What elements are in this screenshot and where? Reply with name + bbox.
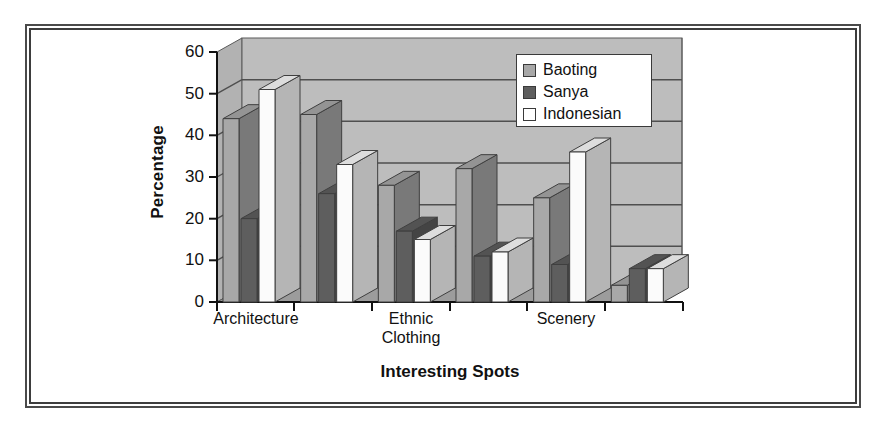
bar-sanya-1-front bbox=[319, 194, 335, 302]
legend-label-sanya: Sanya bbox=[543, 84, 588, 100]
y-axis-title: Percentage bbox=[148, 72, 168, 272]
bar-baoting-2-front bbox=[378, 185, 394, 302]
y-tick-label-40: 40 bbox=[170, 126, 204, 143]
x-tick-label-architecture: Architecture bbox=[196, 309, 316, 328]
x-axis-title-text: Interesting Spots bbox=[381, 362, 520, 381]
legend-label-baoting: Baoting bbox=[543, 62, 597, 78]
bar-indonesian-4-front bbox=[570, 152, 586, 302]
legend-swatch-sanya bbox=[523, 86, 536, 99]
legend-entry-indonesian: Indonesian bbox=[523, 103, 646, 125]
bar-baoting-3-front bbox=[456, 169, 472, 302]
y-tick-label-20: 20 bbox=[170, 210, 204, 227]
bar-chart: 60 50 40 30 20 10 0 Percentage Architect… bbox=[0, 0, 886, 432]
bar-baoting-0-front bbox=[223, 119, 239, 302]
bar-indonesian-5-front bbox=[647, 269, 663, 302]
legend-entry-baoting: Baoting bbox=[523, 59, 646, 81]
bar-sanya-0-front bbox=[241, 219, 257, 302]
y-tick-label-30: 30 bbox=[170, 168, 204, 185]
legend-entry-sanya: Sanya bbox=[523, 81, 646, 103]
y-tick-label-10: 10 bbox=[170, 251, 204, 268]
legend-swatch-indonesian bbox=[523, 108, 536, 121]
bar-sanya-5-front bbox=[629, 269, 645, 302]
legend-swatch-baoting bbox=[523, 64, 536, 77]
y-tick-label-50: 50 bbox=[170, 85, 204, 102]
bar-indonesian-2-front bbox=[414, 240, 430, 303]
bar-indonesian-3-front bbox=[492, 252, 508, 302]
y-tick-label-0: 0 bbox=[170, 293, 204, 310]
x-tick-label-scenery: Scenery bbox=[506, 309, 626, 328]
bar-sanya-3-front bbox=[474, 256, 490, 302]
x-tick-label-clothing: Clothing bbox=[351, 328, 471, 347]
bar-indonesian-4-side bbox=[586, 138, 611, 302]
legend-label-indonesian: Indonesian bbox=[543, 106, 621, 122]
y-tick-label-60: 60 bbox=[170, 43, 204, 60]
bar-indonesian-1-front bbox=[337, 165, 353, 303]
x-tick-label-ethnic: Ethnic bbox=[351, 309, 471, 328]
bar-indonesian-1-side bbox=[353, 151, 378, 303]
bar-baoting-5-front bbox=[611, 285, 627, 302]
y-axis-title-text: Percentage bbox=[148, 125, 167, 219]
x-axis-title: Interesting Spots bbox=[217, 362, 683, 382]
bar-indonesian-0-front bbox=[259, 90, 275, 303]
bar-sanya-4-front bbox=[552, 265, 568, 303]
chart-legend: Baoting Sanya Indonesian bbox=[516, 54, 652, 127]
chart-screenshot: 60 50 40 30 20 10 0 Percentage Architect… bbox=[0, 0, 886, 432]
bar-sanya-2-front bbox=[396, 231, 412, 302]
bar-baoting-4-front bbox=[534, 198, 550, 302]
bar-indonesian-0-side bbox=[275, 76, 300, 303]
bar-baoting-1-front bbox=[301, 115, 317, 303]
